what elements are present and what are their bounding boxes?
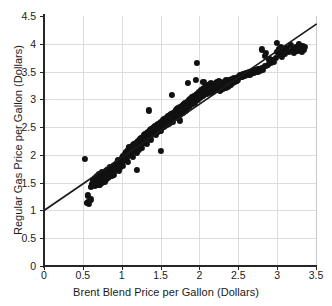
x-tick-label: 3 bbox=[274, 269, 280, 281]
regression-line bbox=[44, 16, 316, 266]
plot-frame-right bbox=[316, 16, 317, 267]
x-tick-label: 2 bbox=[197, 269, 203, 281]
x-axis-spine bbox=[43, 265, 317, 267]
x-tick-label: 1.5 bbox=[153, 269, 168, 281]
x-tick-label: 3.5 bbox=[309, 269, 324, 281]
x-tick-label: 1 bbox=[119, 269, 125, 281]
x-tick-label: 0 bbox=[41, 269, 47, 281]
y-axis-spine bbox=[43, 14, 45, 268]
x-tick-label: 2.5 bbox=[231, 269, 246, 281]
y-axis-label: Regular Gas Price per Gallon (Dollars) bbox=[12, 15, 24, 265]
scatter-chart-figure: 00.511.522.533.5 00.511.522.533.544.5 Br… bbox=[0, 0, 332, 306]
x-tick-label: 0.5 bbox=[76, 269, 91, 281]
x-axis-label: Brent Blend Price per Gallon (Dollars) bbox=[0, 286, 332, 298]
plot-area bbox=[44, 16, 316, 266]
